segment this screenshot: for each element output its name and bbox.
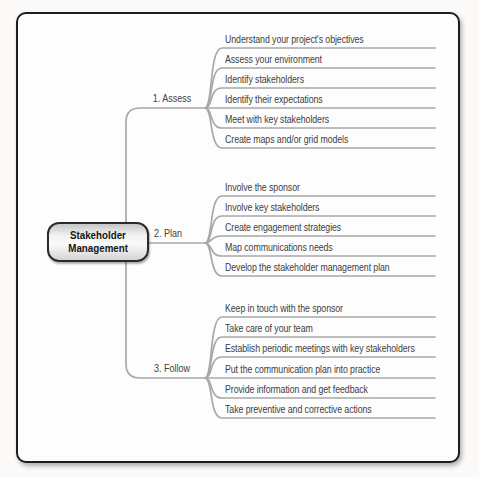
leaf-item: Provide information and get feedback bbox=[225, 383, 397, 396]
leaf-item: Take preventive and corrective actions bbox=[225, 403, 397, 416]
leaf-item: Create maps and/or grid models bbox=[225, 133, 397, 146]
leaf-item: Map communications needs bbox=[225, 241, 397, 254]
leaf-item: Involve the sponsor bbox=[225, 181, 397, 194]
leaf-item: Establish periodic meetings with key sta… bbox=[225, 342, 397, 355]
leaf-item: Identify their expectations bbox=[225, 93, 397, 106]
leaf-item: Assess your environment bbox=[225, 53, 397, 66]
leaf-item: Understand your project's objectives bbox=[225, 33, 397, 46]
center-node: Stakeholder Management bbox=[47, 222, 149, 262]
leaf-item: Meet with key stakeholders bbox=[225, 113, 397, 126]
figure-canvas: Stakeholder Management 1. Assess 2. Plan… bbox=[0, 0, 479, 477]
leaf-item: Create engagement strategies bbox=[225, 221, 397, 234]
center-node-title-line2: Management bbox=[68, 242, 128, 255]
leaf-item: Take care of your team bbox=[225, 322, 397, 335]
leaf-item: Identify stakeholders bbox=[225, 73, 397, 86]
branch-label-assess: 1. Assess bbox=[144, 92, 200, 105]
leaf-item: Involve key stakeholders bbox=[225, 201, 397, 214]
center-node-title-line1: Stakeholder bbox=[70, 229, 126, 242]
branch-label-follow: 3. Follow bbox=[149, 362, 195, 375]
leaf-item: Put the communication plan into practice bbox=[225, 363, 397, 376]
leaf-item: Keep in touch with the sponsor bbox=[225, 302, 397, 315]
leaf-item: Develop the stakeholder management plan bbox=[225, 261, 397, 274]
branch-label-plan: 2. Plan bbox=[147, 227, 190, 240]
